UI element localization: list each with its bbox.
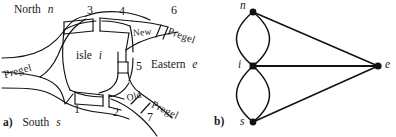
label-isle-vertex: i [99,49,102,61]
vertex-dot-n [250,9,257,16]
vertex-label-s: s [240,116,244,128]
river-bank-north-left [2,16,86,58]
label-isle: isle i [76,50,102,62]
label-eastern-text: Eastern [151,58,185,70]
vertex-label-e: e [385,59,390,71]
bridge-number-1: 1 [74,103,80,115]
caption-b: b) [214,116,224,128]
bridge-number-2: 2 [113,106,119,118]
southeast-channel-inner-upper [99,73,118,93]
vertex-dot-i [250,63,257,70]
label-north-text: North [14,3,41,15]
label-south-text: South [22,116,49,128]
label-isle-text: isle [76,49,92,61]
label-north: North n [14,4,53,16]
panel-a-map: North n isle i Eastern e a) South s Preg… [0,0,205,137]
river-bank-south-left [2,88,66,103]
vertex-label-n: n [240,0,246,12]
label-north-vertex: n [48,3,54,15]
vertex-dot-s [250,119,257,126]
edge-n-e [253,12,378,66]
edge-n-i-right [253,12,270,66]
vertex-label-i: i [238,59,241,71]
bridge-label-new: New [133,27,152,38]
isle-edge-northeast [102,21,130,26]
north-bank-edge [86,12,150,20]
label-south-vertex: s [56,116,60,128]
edge-s-i-right [253,66,270,122]
panel-b-graph: n i e s b) [205,0,396,137]
bridge-3-deck-bottom [64,31,93,34]
isle-edge-east-lower [129,58,133,81]
vertex-dot-e [374,62,381,69]
koenigsberg-figure: North n isle i Eastern e a) South s Preg… [0,0,396,137]
label-eastern: Eastern e [151,59,197,71]
bridge-number-4: 4 [119,5,125,17]
edge-s-i-left [237,66,254,122]
bridge-4-deck-bottom [100,31,129,33]
graph-drawing [205,0,396,137]
bridge-number-7: 7 [147,111,153,123]
bridge-number-3: 3 [87,4,93,16]
caption-a-letter: a) [3,116,13,128]
bridge-number-6: 6 [171,4,177,16]
bridge-number-5: 5 [136,60,142,72]
label-eastern-vertex: e [192,58,197,70]
south-bank-notch-west [66,94,73,103]
caption-a: a) South s [3,117,61,129]
edge-s-e [253,66,378,122]
east-channel-north-inner [126,33,129,50]
